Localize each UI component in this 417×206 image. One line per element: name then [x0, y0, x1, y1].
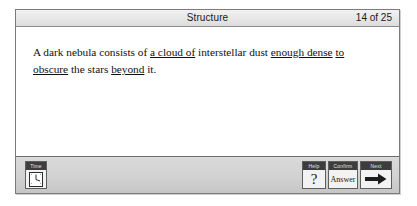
- question-text-run: it.: [144, 63, 156, 75]
- answer-blank[interactable]: beyond: [111, 63, 144, 75]
- time-widget[interactable]: Time: [25, 161, 47, 189]
- screenshot-root: Structure 14 of 25 A dark nebula consist…: [0, 0, 417, 206]
- content-area: A dark nebula consists of a cloud of int…: [16, 28, 399, 156]
- question-mark-icon: ?: [311, 172, 318, 187]
- next-button-face: [361, 170, 391, 188]
- answer-blank[interactable]: enough dense: [271, 46, 333, 58]
- bottom-toolbar: Time Help ?: [16, 156, 399, 193]
- confirm-button-face: Answer: [329, 170, 357, 188]
- confirm-answer-button[interactable]: Confirm Answer: [328, 161, 358, 189]
- help-button-caption: Help: [303, 162, 325, 170]
- help-button-face: ?: [303, 170, 325, 188]
- time-widget-caption: Time: [26, 162, 46, 170]
- confirm-button-label: Answer: [331, 175, 356, 184]
- question-progress-counter: 14 of 25: [356, 12, 392, 23]
- help-button[interactable]: Help ?: [302, 161, 326, 189]
- next-button-caption: Next: [361, 162, 391, 170]
- page-title: Structure: [16, 12, 399, 23]
- question-text-run: the stars: [68, 63, 111, 75]
- window-header: Structure 14 of 25: [16, 10, 399, 27]
- clock-icon: [28, 171, 44, 188]
- answer-blank[interactable]: a cloud of: [150, 46, 195, 58]
- question-text-run: A dark nebula consists of: [33, 46, 150, 58]
- question-text: A dark nebula consists of a cloud of int…: [33, 44, 382, 78]
- next-button[interactable]: Next: [360, 161, 392, 189]
- arrow-right-icon: [364, 172, 388, 186]
- time-widget-face: [26, 170, 46, 188]
- confirm-button-caption: Confirm: [329, 162, 357, 170]
- question-text-run: interstellar dust: [195, 46, 271, 58]
- quiz-window: Structure 14 of 25 A dark nebula consist…: [15, 9, 400, 194]
